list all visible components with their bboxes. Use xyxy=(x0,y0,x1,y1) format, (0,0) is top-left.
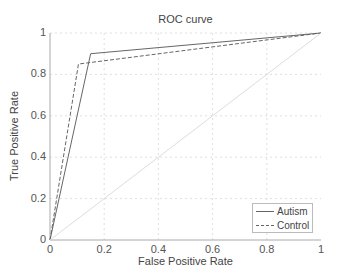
y-tick-label: 0.4 xyxy=(20,150,46,162)
chart-title: ROC curve xyxy=(50,13,321,25)
legend-label: Autism xyxy=(277,206,308,217)
x-tick-label: 0.6 xyxy=(198,243,228,255)
y-tick-label: 0.6 xyxy=(20,109,46,121)
legend-item-autism: Autism xyxy=(253,204,312,218)
x-tick-label: 0.8 xyxy=(252,243,282,255)
x-tick-label: 1 xyxy=(306,243,336,255)
x-tick-label: 0.2 xyxy=(89,243,119,255)
plot-area xyxy=(0,0,337,279)
y-tick-label: 0.8 xyxy=(20,67,46,79)
y-tick-label: 0 xyxy=(20,233,46,245)
legend: Autism Control xyxy=(252,203,313,233)
y-tick-label: 0.2 xyxy=(20,192,46,204)
x-axis-label: False Positive Rate xyxy=(50,255,321,267)
solid-line-icon xyxy=(256,211,274,212)
y-tick-label: 1 xyxy=(20,26,46,38)
x-tick-label: 0.4 xyxy=(143,243,173,255)
legend-label: Control xyxy=(277,220,309,231)
dashed-line-icon xyxy=(256,225,274,226)
legend-item-control: Control xyxy=(253,218,312,232)
y-axis-label: True Positive Rate xyxy=(8,76,20,196)
